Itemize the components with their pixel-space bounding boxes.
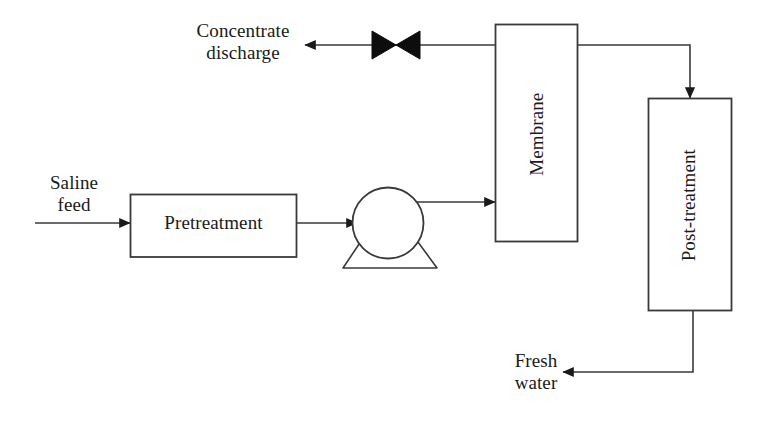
fresh-water-label-line1: Fresh — [515, 350, 558, 371]
fresh-water-label: Freshwater — [494, 350, 578, 395]
membrane-label: Membrane — [526, 79, 548, 189]
concentrate-discharge-label: Concentratedischarge — [178, 20, 308, 65]
concentrate-discharge-label-line1: Concentrate — [197, 20, 290, 41]
pretreatment-label: Pretreatment — [130, 212, 297, 234]
post-treatment-label: Post-treatment — [678, 133, 700, 278]
concentrate-discharge-label-line2: discharge — [206, 42, 279, 63]
fresh-water-label-line2: water — [515, 372, 558, 393]
pump-circle-icon — [353, 188, 424, 259]
saline-feed-label-line2: feed — [57, 194, 90, 215]
flow-line-fresh-water — [563, 310, 693, 372]
process-flow-diagram: Concentratedischarge Salinefeed Freshwat… — [0, 0, 771, 421]
flow-line-membrane-to-post-treatment — [577, 45, 690, 98]
saline-feed-label-line1: Saline — [50, 172, 98, 193]
saline-feed-label: Salinefeed — [28, 172, 120, 217]
valve-icon — [372, 31, 420, 59]
